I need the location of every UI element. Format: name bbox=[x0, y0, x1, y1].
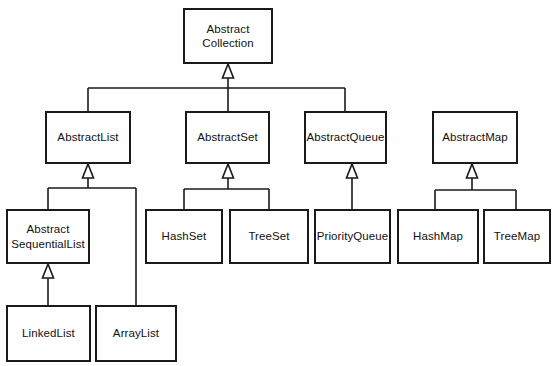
class-hierarchy-diagram: Abstract Collection AbstractList Abstrac… bbox=[0, 0, 554, 366]
class-label-hash-set: HashSet bbox=[159, 229, 210, 243]
class-label-linked-list: LinkedList bbox=[19, 326, 78, 340]
class-label-abstract-sequential-list: Abstract SequentialList bbox=[8, 222, 88, 250]
class-box-hash-map[interactable]: HashMap bbox=[397, 209, 479, 264]
class-label-abstract-collection: Abstract Collection bbox=[199, 22, 257, 50]
class-label-abstract-map: AbstractMap bbox=[439, 130, 511, 144]
class-box-abstract-queue[interactable]: AbstractQueue bbox=[304, 111, 387, 164]
class-box-abstract-collection[interactable]: Abstract Collection bbox=[183, 8, 273, 64]
class-box-tree-map[interactable]: TreeMap bbox=[483, 209, 551, 264]
class-label-abstract-set: AbstractSet bbox=[194, 130, 261, 144]
class-box-array-list[interactable]: ArrayList bbox=[95, 305, 177, 362]
class-label-hash-map: HashMap bbox=[410, 229, 466, 243]
class-label-abstract-queue: AbstractQueue bbox=[304, 130, 388, 144]
class-box-tree-set[interactable]: TreeSet bbox=[229, 209, 309, 264]
class-box-layer: Abstract Collection AbstractList Abstrac… bbox=[0, 0, 554, 366]
class-box-abstract-map[interactable]: AbstractMap bbox=[432, 111, 518, 164]
class-box-abstract-set[interactable]: AbstractSet bbox=[185, 111, 270, 164]
class-box-priority-queue[interactable]: PriorityQueue bbox=[314, 209, 391, 264]
class-box-linked-list[interactable]: LinkedList bbox=[6, 305, 91, 362]
class-label-tree-map: TreeMap bbox=[491, 229, 543, 243]
class-label-priority-queue: PriorityQueue bbox=[314, 229, 392, 243]
class-label-tree-set: TreeSet bbox=[245, 229, 292, 243]
class-box-abstract-list[interactable]: AbstractList bbox=[45, 111, 131, 164]
class-label-array-list: ArrayList bbox=[110, 326, 162, 340]
class-box-abstract-sequential-list[interactable]: Abstract SequentialList bbox=[6, 209, 90, 264]
class-box-hash-set[interactable]: HashSet bbox=[145, 209, 223, 264]
class-label-abstract-list: AbstractList bbox=[54, 130, 121, 144]
